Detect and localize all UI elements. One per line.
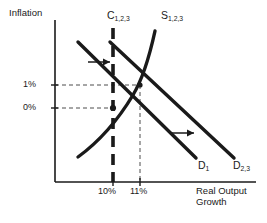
curve-label-d1-base: D [198, 159, 206, 171]
y-tick-label-0pct: 0% [23, 102, 36, 112]
curve-label-d1-subscript: 1 [206, 165, 210, 172]
x-axis-title: Real Output Growth [196, 186, 247, 207]
curve-label-d23: D2,3 [233, 160, 250, 172]
curve-label-d23-subscript: 2,3 [241, 165, 250, 172]
curve-label-s123-base: S [161, 9, 168, 21]
y-axis-title: Inflation [9, 8, 42, 19]
x-axis-title-line2: Growth [196, 197, 247, 208]
equilibrium-point-2 [137, 82, 142, 87]
curve-label-s123-subscript: 1,2,3 [168, 15, 183, 22]
curve-label-d23-base: D [233, 159, 241, 171]
curve-label-s123: S1,2,3 [161, 10, 183, 22]
curve-label-c123-subscript: 1,2,3 [115, 15, 130, 22]
curve-label-d1: D1 [198, 160, 209, 172]
supply-demand-diagram: Inflation 1% 0% 10% 11% Real Output Grow… [0, 0, 267, 223]
y-tick-label-1pct: 1% [23, 79, 36, 89]
curve-label-c123-base: C [107, 9, 115, 21]
x-tick-label-10pct: 10% [98, 186, 116, 196]
x-tick-label-11pct: 11% [130, 186, 147, 196]
curve-label-c123: C1,2,3 [107, 10, 130, 22]
equilibrium-point-1 [110, 105, 116, 111]
